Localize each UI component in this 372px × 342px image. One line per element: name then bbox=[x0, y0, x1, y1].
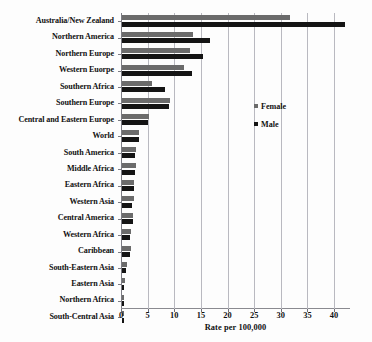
legend-label: Male bbox=[261, 120, 279, 129]
y-tick-mark bbox=[118, 103, 121, 104]
gridline bbox=[307, 13, 308, 309]
bar-female bbox=[122, 65, 184, 70]
plot-area bbox=[121, 13, 350, 309]
x-axis-tick-labels: 0510152025303540 bbox=[121, 311, 350, 323]
bar-female bbox=[122, 213, 133, 218]
legend-swatch-female-icon bbox=[254, 104, 258, 108]
y-tick-mark bbox=[118, 153, 121, 154]
bar-female bbox=[122, 114, 149, 119]
y-tick-mark bbox=[118, 268, 121, 269]
legend-swatch-male-icon bbox=[254, 122, 258, 126]
y-tick-mark bbox=[118, 71, 121, 72]
bar-female bbox=[122, 295, 124, 300]
category-axis-labels: Australia/New ZealandNorthern AmericaNor… bbox=[0, 13, 117, 325]
bar-male bbox=[122, 186, 134, 191]
bar-female bbox=[122, 98, 170, 103]
bar-male bbox=[122, 252, 130, 257]
bar-male bbox=[122, 120, 148, 125]
y-tick-mark bbox=[118, 120, 121, 121]
bar-female bbox=[122, 15, 290, 20]
gridline bbox=[334, 13, 335, 309]
gridline bbox=[228, 13, 229, 309]
gridline bbox=[281, 13, 282, 309]
bar-male bbox=[122, 301, 124, 306]
y-tick-mark bbox=[118, 169, 121, 170]
bar-female bbox=[122, 278, 125, 283]
y-tick-mark bbox=[118, 252, 121, 253]
category-label: South-Eastern Asia bbox=[0, 260, 117, 276]
bar-male bbox=[122, 203, 132, 208]
bar-female bbox=[122, 32, 193, 37]
category-label: Middle Africa bbox=[0, 161, 117, 177]
y-tick-mark bbox=[118, 301, 121, 302]
category-label: Southern Europe bbox=[0, 95, 117, 111]
bar-female bbox=[122, 130, 139, 135]
bar-male bbox=[122, 104, 169, 109]
bar-male bbox=[122, 54, 203, 59]
category-label: Southern Africa bbox=[0, 79, 117, 95]
bar-male bbox=[122, 235, 130, 240]
category-label: Western Asia bbox=[0, 194, 117, 210]
bar-male bbox=[122, 137, 139, 142]
legend-label: Female bbox=[261, 102, 286, 111]
chart-legend: FemaleMale bbox=[254, 100, 286, 136]
bar-female bbox=[122, 246, 131, 251]
y-tick-mark bbox=[118, 21, 121, 22]
bar-male bbox=[122, 285, 124, 290]
bar-male bbox=[122, 268, 126, 273]
x-axis-line bbox=[121, 308, 350, 309]
x-tick-label: 30 bbox=[269, 311, 293, 320]
x-tick-label: 10 bbox=[162, 311, 186, 320]
category-label: South-Central Asia bbox=[0, 309, 117, 325]
y-tick-mark bbox=[118, 87, 121, 88]
legend-item-male[interactable]: Male bbox=[254, 118, 286, 130]
bar-female bbox=[122, 262, 127, 267]
y-tick-mark bbox=[118, 235, 121, 236]
category-label: Central America bbox=[0, 210, 117, 226]
y-tick-mark bbox=[118, 54, 121, 55]
category-label: Northern Africa bbox=[0, 292, 117, 308]
bar-male bbox=[122, 153, 135, 158]
bar-female bbox=[122, 229, 131, 234]
bar-female bbox=[122, 147, 136, 152]
x-tick-label: 5 bbox=[136, 311, 160, 320]
x-tick-label: 15 bbox=[189, 311, 213, 320]
category-label: Northern Europe bbox=[0, 46, 117, 62]
category-label: Western Euorpe bbox=[0, 62, 117, 78]
y-tick-mark bbox=[118, 284, 121, 285]
bar-male bbox=[122, 38, 210, 43]
y-tick-mark bbox=[118, 186, 121, 187]
y-tick-mark bbox=[118, 136, 121, 137]
y-tick-mark bbox=[118, 219, 121, 220]
bar-male bbox=[122, 170, 135, 175]
legend-item-female[interactable]: Female bbox=[254, 100, 286, 112]
x-tick-label: 40 bbox=[322, 311, 346, 320]
bar-male bbox=[122, 71, 192, 76]
x-tick-label: 25 bbox=[242, 311, 266, 320]
category-label: Eastern Africa bbox=[0, 177, 117, 193]
category-label: Eastern Asia bbox=[0, 276, 117, 292]
category-label: Australia/New Zealand bbox=[0, 13, 117, 29]
bar-female bbox=[122, 180, 134, 185]
x-tick-label: 35 bbox=[295, 311, 319, 320]
y-tick-mark bbox=[118, 38, 121, 39]
bar-female bbox=[122, 48, 190, 53]
bar-male bbox=[122, 219, 133, 224]
category-label: Central and Eastern Europe bbox=[0, 112, 117, 128]
bar-male bbox=[122, 87, 165, 92]
x-axis-title: Rate per 100,000 bbox=[121, 323, 350, 332]
y-tick-mark bbox=[118, 202, 121, 203]
gridline bbox=[254, 13, 255, 309]
x-tick-label: 0 bbox=[109, 311, 133, 320]
bar-female bbox=[122, 196, 134, 201]
category-label: World bbox=[0, 128, 117, 144]
x-tick-label: 20 bbox=[216, 311, 240, 320]
melanoma-incidence-bar-chart: Australia/New ZealandNorthern AmericaNor… bbox=[0, 0, 372, 342]
category-label: Caribbean bbox=[0, 243, 117, 259]
bar-female bbox=[122, 163, 136, 168]
bar-female bbox=[122, 81, 152, 86]
category-label: Northern America bbox=[0, 29, 117, 45]
category-label: Western Africa bbox=[0, 227, 117, 243]
category-label: South America bbox=[0, 145, 117, 161]
bar-male bbox=[122, 22, 345, 27]
